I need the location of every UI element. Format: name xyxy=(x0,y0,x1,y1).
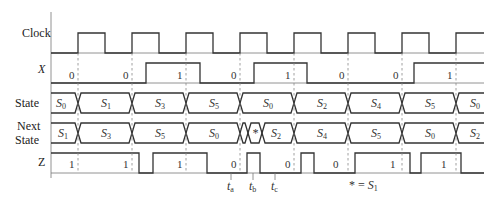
svg-text:tb: tb xyxy=(249,179,256,194)
z-values: 1 1 1 0 0 0 1 1 xyxy=(69,158,447,170)
svg-text:0: 0 xyxy=(69,69,75,81)
time-markers: ta tb tc xyxy=(227,173,278,194)
label-z: Z xyxy=(38,155,45,169)
svg-text:1: 1 xyxy=(177,158,183,170)
svg-text:S3: S3 xyxy=(155,96,165,111)
svg-text:S1: S1 xyxy=(58,126,68,141)
label-x: X xyxy=(37,62,46,76)
svg-text:S5: S5 xyxy=(371,126,381,141)
svg-text:S5: S5 xyxy=(155,126,165,141)
svg-text:S4: S4 xyxy=(371,96,381,111)
svg-text:S4: S4 xyxy=(317,126,327,141)
svg-text:0: 0 xyxy=(123,69,129,81)
svg-text:1: 1 xyxy=(447,69,453,81)
svg-text:S0: S0 xyxy=(56,96,66,111)
next-state-values: S1 S3 S5 S0 * S2 S4 S5 S0 S2 xyxy=(58,126,480,141)
x-values: 0 0 1 0 1 0 0 1 xyxy=(69,69,453,81)
x-waveform xyxy=(51,63,484,83)
label-clock: Clock xyxy=(22,26,51,40)
svg-text:S5: S5 xyxy=(209,96,219,111)
svg-text:S0: S0 xyxy=(470,96,480,111)
svg-text:1: 1 xyxy=(177,69,183,81)
footnote: * = S1 xyxy=(349,178,378,193)
svg-text:1: 1 xyxy=(285,69,291,81)
svg-text:0: 0 xyxy=(231,69,237,81)
svg-text:S1: S1 xyxy=(101,96,111,111)
svg-text:1: 1 xyxy=(441,158,447,170)
svg-text:0: 0 xyxy=(393,69,399,81)
svg-text:0: 0 xyxy=(231,158,237,170)
svg-text:S0: S0 xyxy=(209,126,219,141)
clock-waveform xyxy=(51,33,484,53)
label-state: State xyxy=(15,96,39,110)
label-next-state-1: Next xyxy=(17,119,41,133)
svg-text:S2: S2 xyxy=(271,126,281,141)
svg-text:tc: tc xyxy=(271,179,278,194)
svg-text:1: 1 xyxy=(123,158,129,170)
svg-text:S0: S0 xyxy=(425,126,435,141)
svg-text:S3: S3 xyxy=(101,126,111,141)
svg-text:S0: S0 xyxy=(263,96,273,111)
svg-text:1: 1 xyxy=(69,158,75,170)
z-waveform xyxy=(51,153,484,173)
svg-text:S2: S2 xyxy=(317,96,327,111)
svg-text:0: 0 xyxy=(339,69,345,81)
svg-text:0: 0 xyxy=(333,158,339,170)
timing-diagram: Clock X State Next State Z 0 0 1 0 1 xyxy=(0,0,504,203)
svg-text:S2: S2 xyxy=(470,126,480,141)
state-values: S0 S1 S3 S5 S0 S2 S4 S5 S0 xyxy=(56,96,480,111)
svg-text:*: * xyxy=(252,126,258,140)
svg-text:S5: S5 xyxy=(425,96,435,111)
label-next-state-2: State xyxy=(15,133,39,147)
svg-text:0: 0 xyxy=(285,158,291,170)
next-state-bus xyxy=(51,123,484,143)
svg-text:1: 1 xyxy=(390,158,396,170)
svg-text:ta: ta xyxy=(227,179,234,194)
